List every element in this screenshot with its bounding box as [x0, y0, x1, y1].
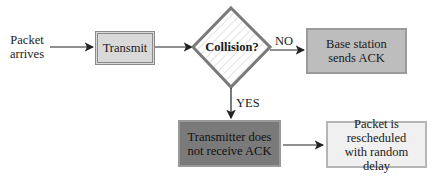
edge-label-no: NO [275, 34, 293, 48]
node-not-receive-ack: Transmitter does not receive ACK [178, 120, 281, 167]
node-base-station: Base station sends ACK [306, 28, 407, 74]
node-rescheduled-label: Packet is rescheduled with random delay [328, 117, 425, 173]
node-transmit: Transmit [95, 31, 155, 65]
edge-label-yes: YES [236, 96, 260, 110]
start-label-line1: Packet [6, 33, 48, 47]
node-rescheduled: Packet is rescheduled with random delay [326, 121, 427, 168]
start-label: Packet arrives [6, 33, 48, 61]
node-transmit-label: Transmit [103, 41, 148, 55]
node-base-station-label: Base station sends ACK [308, 37, 405, 65]
start-label-line2: arrives [6, 47, 48, 61]
node-collision-label: Collision? [196, 40, 268, 55]
node-not-receive-ack-label: Transmitter does not receive ACK [180, 130, 279, 158]
